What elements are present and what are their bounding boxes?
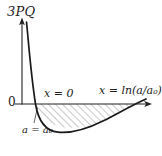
x-zero-label: x = 0 [44,88,73,99]
origin-label: 0 [8,96,16,108]
a0-leader-line [34,108,38,124]
plot-figure: 3PQ 0 x = 0 x = ln(a/a₀) a = a₀ [0,0,162,156]
y-axis [19,18,25,105]
x-axis-label: x = ln(a/a₀) [99,85,162,96]
a-equals-a0-label: a = a₀ [22,125,53,135]
y-axis-label: 3PQ [7,5,36,18]
